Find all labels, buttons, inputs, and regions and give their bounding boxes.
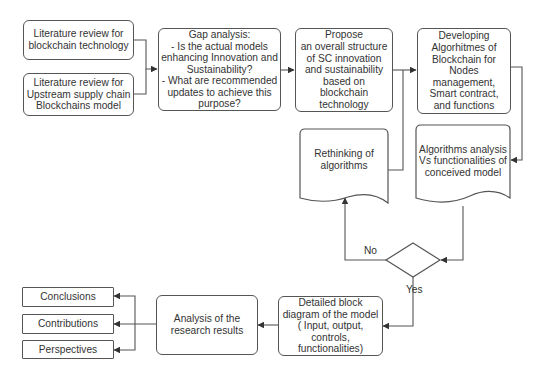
- perspectives-node[interactable]: Perspectives: [22, 340, 114, 359]
- edge-analysis-to-decision: [441, 206, 463, 260]
- edge-label-no: No: [364, 245, 377, 256]
- rethinking-algorithms-node[interactable]: Rethinking of algorithms: [300, 140, 388, 180]
- contributions-node[interactable]: Contributions: [22, 314, 114, 334]
- gap-analysis-node[interactable]: Gap analysis: - Is the actual models enh…: [158, 28, 281, 111]
- propose-structure-node[interactable]: Propose an overall structure of SC innov…: [295, 28, 393, 112]
- decision-diamond: [386, 243, 440, 277]
- edge-lit1-to-gap: [133, 40, 157, 69]
- edge-developing-to-analysis: [510, 67, 522, 160]
- edge-lit2-to-gap: [133, 69, 146, 94]
- edge-analysis-to-perspectives: [114, 324, 135, 350]
- lit-review-upstream-node[interactable]: Literature review for Upstream supply ch…: [23, 73, 134, 116]
- analysis-results-node[interactable]: Analysis of the research results: [156, 295, 258, 355]
- edge-label-yes: Yes: [406, 284, 423, 295]
- developing-algorithms-node[interactable]: Developing Algorhitmes of Blockchain for…: [417, 28, 511, 114]
- algorithms-analysis-node[interactable]: Algorithms analysis Vs functionalities o…: [416, 140, 510, 182]
- detailed-block-diagram-node[interactable]: Detailed block diagram of the model ( In…: [278, 296, 383, 356]
- conclusions-node[interactable]: Conclusions: [22, 287, 114, 307]
- lit-review-blockchain-node[interactable]: Literature review for blockchain technol…: [23, 20, 134, 60]
- edge-analysis-to-conclusions: [114, 296, 135, 324]
